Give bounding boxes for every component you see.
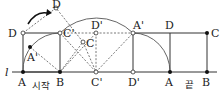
label-A-prime-rot: A' [26, 51, 38, 64]
label-C-prime-top: C' [63, 27, 74, 40]
label-C-end: C [211, 27, 219, 40]
label-B-end: B [202, 76, 210, 89]
point [205, 70, 209, 74]
point [205, 31, 209, 35]
open-point [21, 31, 25, 35]
label-end: 끝 [185, 79, 194, 90]
label-A-prime-top: A' [132, 19, 144, 32]
label-l: l [5, 66, 9, 79]
dash-diag-3 [96, 33, 133, 72]
point [21, 70, 25, 74]
label-D-start: D [8, 27, 17, 40]
arc-3 [133, 33, 170, 72]
open-point [81, 40, 85, 44]
open-point [131, 70, 135, 74]
open-point [58, 31, 62, 35]
label-B-start: B [56, 76, 64, 89]
label-C-prime-bottom: C' [91, 76, 102, 89]
point [58, 70, 62, 74]
label-D-prime-bottom: D' [128, 76, 140, 89]
rolling-square-diagram: l A B 시작 D D C' C A' D' C' D' A' D A 끝 C… [0, 0, 222, 91]
label-C-rot: C [86, 37, 94, 50]
label-D-prime-top: D' [91, 19, 103, 32]
label-A-end: A [164, 76, 174, 89]
label-D-rot: D [52, 0, 61, 11]
open-point [94, 70, 98, 74]
label-D-end: D [165, 19, 174, 32]
label-A-start: A [17, 76, 27, 89]
label-start: 시작 [32, 80, 50, 91]
point [28, 45, 32, 49]
point [168, 70, 172, 74]
